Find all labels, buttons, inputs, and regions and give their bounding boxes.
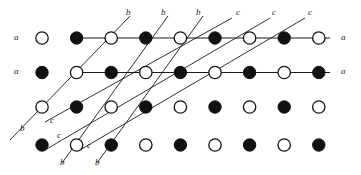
lattice-node-open-r1-c5	[209, 66, 221, 78]
lattice-node-open-r3-c5	[209, 139, 221, 151]
lattice-node-open-r0-c0	[36, 32, 48, 44]
label-a-right-row1: a	[341, 67, 346, 76]
lattice-node-open-r1-c1	[70, 66, 82, 78]
label-a-right-row0: a	[341, 33, 346, 42]
lattice-node-filled-r2-c1	[70, 101, 82, 113]
label-c-top-2: c	[272, 8, 276, 17]
lattice-node-open-r3-c7	[278, 139, 290, 151]
lattice-figure: aaaabbbcccbccbcb	[0, 0, 361, 175]
label-b-top-3: b	[196, 8, 201, 17]
lattice-node-open-r2-c2	[105, 101, 117, 113]
lattice-node-open-r0-c8	[313, 32, 325, 44]
label-c-left-1: c	[50, 116, 54, 125]
label-b-top-2: b	[161, 8, 166, 17]
lattice-node-open-r2-c4	[174, 101, 186, 113]
lattice-node-filled-r0-c7	[278, 32, 290, 44]
lattice-node-filled-r3-c6	[243, 139, 255, 151]
lattice-node-filled-r1-c6	[243, 66, 255, 78]
lattice-node-filled-r2-c7	[278, 101, 290, 113]
lattice-node-filled-r2-c5	[209, 101, 221, 113]
lattice-svg	[0, 0, 361, 175]
lattice-node-filled-r3-c8	[313, 139, 325, 151]
lattice-node-filled-r1-c2	[105, 66, 117, 78]
label-a-left-row1: a	[14, 67, 19, 76]
lattice-node-open-r3-c1	[70, 139, 82, 151]
lattice-node-filled-r0-c5	[209, 32, 221, 44]
lattice-node-filled-r1-c8	[313, 66, 325, 78]
lattice-node-open-r2-c0	[36, 101, 48, 113]
label-c-top-1: c	[236, 8, 240, 17]
lattice-node-open-r3-c3	[140, 139, 152, 151]
lattice-node-filled-r1-c4	[174, 66, 186, 78]
lattice-node-open-r0-c6	[243, 32, 255, 44]
lattice-node-filled-r3-c4	[174, 139, 186, 151]
lattice-node-open-r1-c7	[278, 66, 290, 78]
lattice-node-open-r2-c8	[313, 101, 325, 113]
lattice-node-open-r0-c2	[105, 32, 117, 44]
lattice-node-filled-r3-c0	[36, 139, 48, 151]
label-c-bottom-1: c	[87, 141, 91, 150]
lattice-node-open-r2-c6	[243, 101, 255, 113]
lattice-node-open-r1-c3	[140, 66, 152, 78]
lattice-node-filled-r2-c3	[140, 101, 152, 113]
label-b-bottom-1: b	[60, 158, 65, 167]
lattice-node-filled-r0-c1	[70, 32, 82, 44]
lattice-node-filled-r3-c2	[105, 139, 117, 151]
label-b-top-1: b	[126, 8, 131, 17]
label-a-left-row0: a	[14, 33, 19, 42]
lattice-node-filled-r1-c0	[36, 66, 48, 78]
label-b-left-1: b	[20, 124, 25, 133]
label-b-bottom-2: b	[95, 158, 100, 167]
lattice-node-open-r0-c4	[174, 32, 186, 44]
label-c-left-2: c	[57, 131, 61, 140]
label-c-top-3: c	[308, 8, 312, 17]
lattice-node-filled-r0-c3	[140, 32, 152, 44]
